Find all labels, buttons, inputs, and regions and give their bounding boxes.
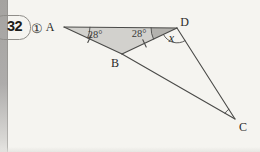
point-label-d: D xyxy=(180,15,189,29)
angle-label-a-28: 28° xyxy=(88,29,103,40)
point-label-c: C xyxy=(239,120,247,134)
angle-label-adb-28: 28° xyxy=(132,28,147,39)
page-bottom-shadow xyxy=(0,147,260,152)
line-bc xyxy=(122,54,235,119)
geometry-figure: A B C D 28° 28° x xyxy=(0,0,260,152)
angle-c-arc xyxy=(225,109,229,113)
figure-strokes xyxy=(64,27,235,119)
line-dc xyxy=(177,28,235,119)
angle-label-x: x xyxy=(168,31,175,45)
point-label-b: B xyxy=(111,56,119,70)
point-label-a: A xyxy=(46,20,55,34)
workbook-page: 32 ① A B C D 28° xyxy=(0,0,260,152)
